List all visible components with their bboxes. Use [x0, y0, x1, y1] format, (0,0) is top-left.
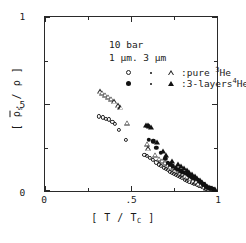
data-point — [117, 128, 121, 132]
filled-circle-icon — [115, 77, 141, 88]
legend-row-3layers-4he: :3-layers4He — [115, 76, 246, 89]
x-tick-top-0 — [45, 17, 46, 22]
y-tick-0.5 — [45, 104, 50, 105]
y-tick-0.75 — [45, 61, 48, 62]
data-point — [154, 145, 158, 149]
figure-canvas: 1 .5 0 0 .5 1 [ T / TC ] [ ρs / ρ ] 10 b… — [0, 0, 246, 243]
small-dot-icon-2 — [141, 77, 161, 88]
y-tick-0.25 — [45, 148, 48, 149]
legend-label-3layers-4he: :3-layers4He — [181, 78, 246, 89]
x-tick-label-0.5: .5 — [121, 195, 141, 205]
x-axis-title: [ T / TC ] — [0, 212, 246, 225]
x-tick-label-0: 0 — [34, 195, 54, 205]
x-tick-0.75 — [174, 188, 175, 191]
x-tick-top-0.25 — [88, 17, 89, 20]
plot-area: 10 bar 1 µm. 3 µm :pure 3He :3-layers4He — [44, 16, 218, 192]
data-point — [163, 152, 169, 157]
annotation-thickness: 1 µm. 3 µm — [109, 52, 166, 64]
x-tick-top-1 — [217, 17, 218, 22]
x-tick-top-0.75 — [174, 17, 175, 20]
filled-triangle-icon — [161, 77, 181, 88]
y-tick-label-0: 0 — [20, 188, 25, 198]
data-point — [125, 120, 131, 125]
y-tick-right-0.25 — [214, 148, 217, 149]
data-point — [123, 138, 127, 142]
x-tick-label-1: 1 — [208, 195, 228, 205]
y-tick-right-0.5 — [212, 104, 217, 105]
data-point — [118, 105, 124, 110]
data-point — [169, 158, 175, 163]
annotation-pressure: 10 bar — [109, 39, 143, 51]
data-point — [154, 139, 160, 144]
data-point — [212, 187, 218, 192]
data-point — [148, 124, 154, 129]
data-point — [113, 122, 117, 126]
y-axis-title: [ ρs / ρ ] — [11, 34, 24, 164]
x-tick-0 — [45, 186, 46, 191]
x-tick-0.5 — [131, 186, 132, 191]
y-tick-label-1: 1 — [20, 12, 25, 22]
data-point — [145, 146, 151, 151]
x-tick-top-0.5 — [131, 17, 132, 22]
x-tick-0.25 — [88, 188, 89, 191]
y-tick-right-0.75 — [214, 61, 217, 62]
